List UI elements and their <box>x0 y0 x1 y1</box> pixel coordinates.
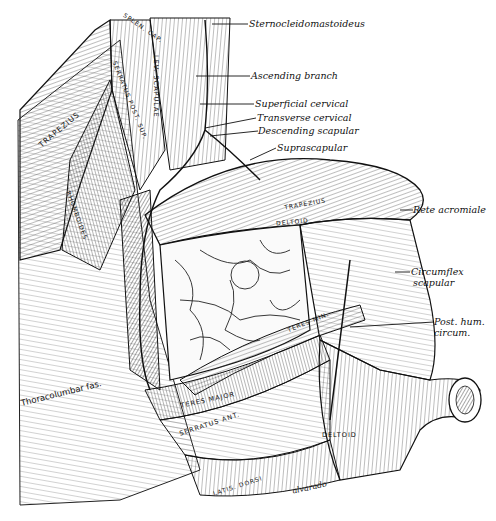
anatomical-illustration <box>0 0 496 521</box>
label-rete-acromiale: Rete acromiale <box>413 204 486 215</box>
label-circumflex-scapular-line2: scapular <box>413 277 454 288</box>
label-post-hum-circum-line2: circum. <box>434 327 470 338</box>
muscle-label-deltoid-lower: DELTOID <box>322 431 357 439</box>
label-transverse-cervical: Transverse cervical <box>257 112 352 123</box>
label-suprascapular: Suprascapular <box>277 142 347 153</box>
muscle-label-lev-scapulae: LEV. SCAPULAE <box>152 55 160 118</box>
label-superficial-cervical: Superficial cervical <box>255 98 348 109</box>
label-sternocleidomastoideus: Sternocleidomastoideus <box>249 18 365 29</box>
label-descending-scapular: Descending scapular <box>258 125 359 136</box>
label-ascending-branch: Ascending branch <box>251 70 338 81</box>
label-post-hum-circum-line1: Post. hum. <box>434 316 485 327</box>
label-circumflex-scapular-line1: Circumflex <box>411 266 464 277</box>
